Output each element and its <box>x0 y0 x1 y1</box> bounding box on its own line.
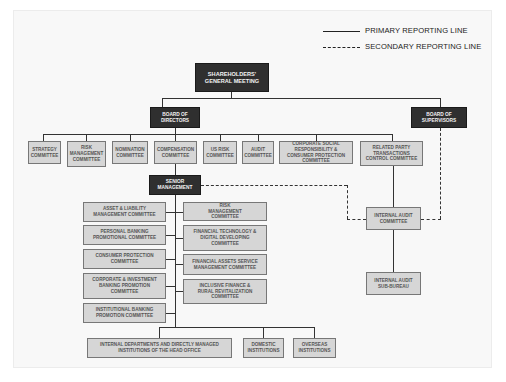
connector <box>43 134 392 135</box>
node-overseas-institutions: OVERSEAS INSTITUTIONS <box>293 338 336 358</box>
node-inclusive-finance-rural-committee: INCLUSIVE FINANCE & RURAL REVITALIZATION… <box>183 279 267 304</box>
node-shareholders-meeting: SHAREHOLDERS' GENERAL MEETING <box>195 63 269 92</box>
connector <box>166 235 175 236</box>
node-asset-liability-committee: ASSET & LIABILITY MANAGEMENT COMMITTEE <box>83 202 166 222</box>
node-financial-assets-service-committee: FINANCIAL ASSETS SERVICE MANAGEMENT COMM… <box>183 254 267 275</box>
node-personal-banking-committee: PERSONAL BANKING PROMOTIONAL COMMITTEE <box>83 225 166 245</box>
solid-line-icon <box>323 31 360 32</box>
node-fintech-digital-committee: FINANCIAL TECHNOLOGY & DIGITAL DEVELOPIN… <box>183 225 267 251</box>
connector <box>175 195 176 327</box>
node-internal-audit-committee: INTERNAL AUDIT COMMITTEE <box>366 207 421 230</box>
node-consumer-protection-committee: CONSUMER PROTECTION COMMITTEE <box>83 249 166 269</box>
node-nomination-committee: NOMINATION COMMITTEE <box>112 141 148 164</box>
node-board-of-supervisors: BOARD OF SUPERVISORS <box>411 107 467 128</box>
node-institutional-banking-committee: INSTITUTIONAL BANKING PROMOTION COMMITTE… <box>83 303 166 323</box>
node-related-party-transactions-committee: RELATED PARTY TRANSACTIONS CONTROL COMMI… <box>360 141 423 166</box>
node-audit-committee: AUDIT COMMITTEE <box>242 141 274 164</box>
connector <box>175 291 183 292</box>
connector <box>258 134 259 141</box>
connector <box>162 98 163 107</box>
connector <box>220 134 221 141</box>
connector <box>175 164 176 175</box>
connector <box>159 327 315 328</box>
connector <box>159 327 160 338</box>
secondary-connector <box>201 185 347 186</box>
connector <box>130 134 131 141</box>
node-board-of-directors: BOARD OF DIRECTORS <box>150 107 200 128</box>
connector <box>392 134 393 141</box>
node-internal-audit-sub-bureau: INTERNAL AUDIT SUB-BUREAU <box>366 272 421 295</box>
node-csr-consumer-protection-committee: CORPORATE SOCIAL RESPONSIBILITY & CONSUM… <box>279 141 353 164</box>
legend-secondary-label: SECONDARY REPORTING LINE <box>365 42 481 51</box>
secondary-connector <box>347 219 366 220</box>
secondary-connector <box>347 185 348 219</box>
connector <box>166 313 175 314</box>
connector <box>175 134 176 141</box>
node-corporate-investment-banking-committee: CORPORATE & INVESTMENT BANKING PROMOTION… <box>83 273 166 299</box>
node-senior-management: SENIOR MANAGEMENT <box>149 175 201 195</box>
connector <box>166 286 175 287</box>
connector <box>166 212 183 213</box>
connector <box>43 134 44 141</box>
node-strategy-committee: STRATEGY COMMITTEE <box>28 141 61 164</box>
connector <box>393 166 394 207</box>
node-risk-management-committee: RISK MANAGEMENT COMMITTEE <box>67 141 106 167</box>
node-internal-departments: INTERNAL DEPARTMENTS AND DIRECTLY MANAGE… <box>87 338 232 358</box>
node-domestic-institutions: DOMESTIC INSTITUTIONS <box>243 338 284 358</box>
connector <box>86 134 87 141</box>
node-mgmt-risk-management-committee: RISK MANAGEMENT COMMITTEE <box>183 202 267 221</box>
connector <box>166 259 175 260</box>
node-compensation-committee: COMPENSATION COMMITTEE <box>154 141 197 164</box>
connector <box>162 98 441 99</box>
dashed-line-icon <box>323 47 360 48</box>
connector <box>314 327 315 338</box>
connector <box>393 230 394 272</box>
legend-primary-label: PRIMARY REPORTING LINE <box>365 26 468 35</box>
secondary-connector <box>440 128 441 219</box>
secondary-connector <box>421 219 441 220</box>
connector <box>316 134 317 141</box>
connector <box>175 264 183 265</box>
connector <box>440 98 441 107</box>
connector <box>175 238 183 239</box>
node-us-risk-committee: US RISK COMMITTEE <box>203 141 237 164</box>
connector <box>263 327 264 338</box>
